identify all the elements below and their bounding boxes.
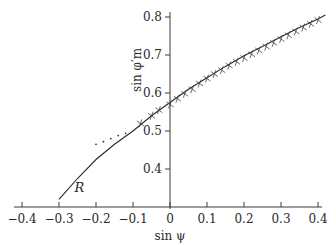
data-point-dot: [103, 141, 105, 143]
y-tick-label: 0.6: [143, 86, 162, 100]
x-axis-label: sin ψ: [155, 229, 186, 243]
x-tick-label: 0.4: [308, 212, 327, 226]
x-tick-label: −0.3: [44, 212, 73, 226]
x-tick-label: −0.1: [118, 212, 147, 226]
y-tick-label: 0.5: [143, 124, 162, 138]
chart: −0.4−0.3−0.2−0.100.10.20.30.40.40.50.60.…: [0, 0, 336, 245]
data-point-dot: [110, 138, 112, 140]
y-tick-label: 0.8: [143, 10, 162, 24]
y-axis-label: sin φ′m: [130, 47, 144, 92]
plot-area: R: [59, 15, 325, 199]
x-tick-label: −0.4: [7, 212, 37, 226]
curve-label-r: R: [74, 180, 85, 195]
data-point-dot: [95, 143, 97, 145]
x-tick-label: 0.1: [197, 212, 216, 226]
data-point-cross: [148, 112, 155, 120]
x-tick-label: 0: [166, 212, 174, 226]
y-tick-label: 0.4: [143, 162, 162, 176]
y-tick-label: 0.7: [143, 48, 162, 62]
data-point-dot: [117, 135, 119, 137]
x-tick-label: 0.2: [234, 212, 253, 226]
axes: −0.4−0.3−0.2−0.100.10.20.30.40.40.50.60.…: [7, 10, 327, 243]
x-tick-label: 0.3: [271, 212, 290, 226]
curve-r: [59, 15, 325, 199]
data-point-dot: [125, 132, 127, 134]
x-tick-label: −0.2: [81, 212, 110, 226]
